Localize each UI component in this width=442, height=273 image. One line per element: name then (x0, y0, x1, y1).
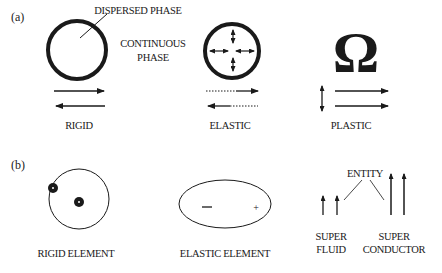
rigid-label: RIGID (65, 120, 93, 131)
elastic-element-label: ELASTIC ELEMENT (180, 248, 271, 259)
superconductor-label-line2: CONDUCTOR (363, 244, 426, 255)
entity-leader-right (370, 180, 384, 200)
rigid-element-label: RIGID ELEMENT (38, 248, 116, 259)
rigid-circle-icon (48, 21, 106, 79)
super-group: ENTITY SUPER FLUID SUPER CONDUCTOR (315, 168, 425, 255)
continuous-phase-label-line1: CONTINUOUS (120, 38, 186, 49)
entity-leader-left (344, 180, 362, 200)
figure: (a) RIGID DISPERSED PHASE CONTINUOUS PHA… (0, 0, 442, 273)
particle-inner-center (78, 201, 80, 203)
elastic-group: ELASTIC (205, 24, 259, 131)
rigid-group: RIGID (48, 14, 107, 131)
superconductor-label-line1: SUPER (378, 231, 409, 242)
diagram-canvas: (a) RIGID DISPERSED PHASE CONTINUOUS PHA… (0, 0, 442, 273)
plastic-label: PLASTIC (331, 120, 372, 131)
plastic-group: Ω PLASTIC (322, 20, 388, 131)
particle-outer-center (52, 187, 54, 189)
dispersed-phase-label: DISPERSED PHASE (94, 5, 181, 16)
entity-label: ENTITY (347, 168, 384, 179)
superfluid-label-line1: SUPER (315, 231, 346, 242)
omega-icon: Ω (333, 20, 379, 85)
superfluid-label-line2: FLUID (316, 244, 346, 255)
plus-sign: + (253, 202, 259, 213)
elastic-element-group: + ELASTIC ELEMENT (179, 180, 271, 259)
elastic-label: ELASTIC (209, 120, 250, 131)
panel-a-label: (a) (11, 10, 24, 24)
panel-b-label: (b) (11, 158, 25, 172)
rigid-element-group: RIGID ELEMENT (38, 169, 116, 259)
continuous-phase-label-line2: PHASE (137, 52, 169, 63)
